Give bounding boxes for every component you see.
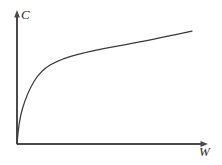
y-axis-label: C — [21, 8, 30, 21]
y-axis-arrowhead-icon — [14, 10, 20, 18]
axes-group — [14, 10, 208, 147]
plot-canvas — [0, 0, 222, 165]
data-curve-group — [17, 31, 192, 144]
data-curve — [17, 31, 192, 144]
x-axis-label: W — [199, 145, 210, 158]
graph-figure: C W — [0, 0, 222, 165]
